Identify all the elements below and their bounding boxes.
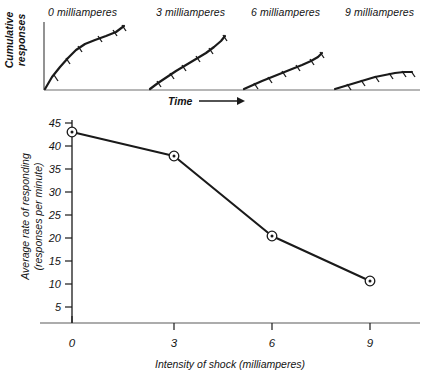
cumulative-curve-9ma [335, 72, 412, 89]
y-tick-label-15: 15 [49, 255, 62, 267]
x-tick-label-3: 3 [171, 337, 178, 349]
x-tick-label-6: 6 [269, 337, 276, 349]
figure-container: 0 milliamperes 3 milliamperes 6 milliamp… [0, 0, 426, 383]
cumulative-curve-3ma [150, 36, 225, 89]
y-axis-ticks: 45 40 35 30 25 20 15 10 5 [48, 117, 72, 313]
y-tick-label-45: 45 [49, 117, 62, 129]
right-arrow-icon [199, 96, 245, 106]
rate-x-axis-label: Intensity of shock (milliamperes) [0, 358, 426, 370]
x-tick-label-9: 9 [367, 337, 374, 349]
y-tick-label-10: 10 [49, 278, 62, 290]
rate-line-chart-svg: 45 40 35 30 25 20 15 10 5 0 3 6 9 [0, 108, 426, 358]
data-line-series [72, 132, 370, 281]
cumulative-records-panel: 0 milliamperes 3 milliamperes 6 milliamp… [0, 0, 426, 112]
data-point-dot [271, 235, 274, 238]
cumulative-record-0ma [45, 25, 126, 89]
y-tick-label-25: 25 [48, 209, 62, 221]
y-tick-label-5: 5 [55, 301, 62, 313]
data-point-dot [173, 155, 176, 158]
data-point-dot [369, 280, 372, 283]
y-tick-label-30: 30 [49, 186, 62, 198]
y-tick-label-20: 20 [48, 232, 62, 244]
rate-line-chart-panel: Average rate of responding (responses pe… [0, 108, 426, 383]
cumulative-record-6ma [244, 52, 324, 89]
time-axis-label-group: Time [168, 95, 245, 107]
x-axis-ticks: 0 3 6 9 [69, 316, 374, 349]
y-tick-label-40: 40 [49, 140, 62, 152]
time-axis-label: Time [168, 95, 192, 107]
x-tick-label-0: 0 [69, 337, 76, 349]
cumulative-curve-6ma [244, 53, 322, 89]
data-point-dot [71, 131, 74, 134]
cumulative-record-9ma [335, 71, 415, 90]
cumulative-record-3ma [150, 35, 227, 89]
hash-mark [54, 75, 58, 81]
y-tick-label-35: 35 [49, 163, 62, 175]
